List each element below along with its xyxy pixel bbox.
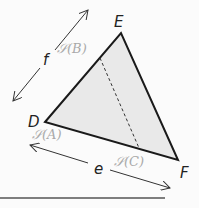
script-label-b: 𝒮(B): [57, 41, 87, 56]
vertex-label-f: F: [180, 164, 189, 182]
side-label-e: e: [94, 160, 103, 178]
triangle-diagram: E D F f e 𝒮(B) 𝒮(A) 𝒮(C): [0, 0, 199, 208]
vertex-label-e: E: [114, 13, 124, 31]
script-label-c: 𝒮(C): [114, 154, 144, 169]
side-label-f: f: [43, 51, 51, 69]
script-label-a: 𝒮(A): [32, 127, 62, 142]
